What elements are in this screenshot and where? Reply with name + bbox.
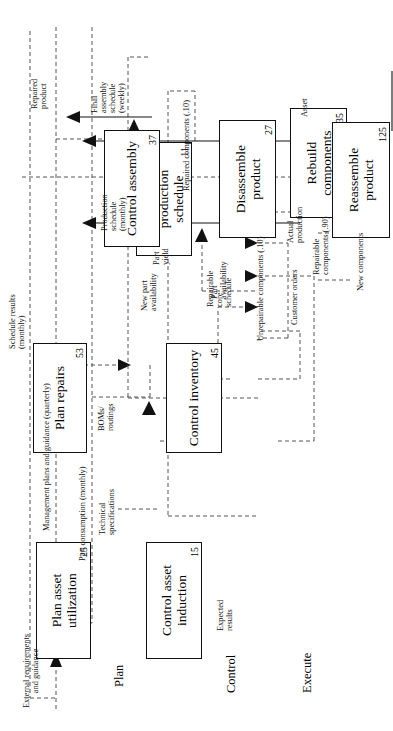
label-schedule-results: Schedule results (monthly) — [8, 239, 26, 349]
label-management-plans-and-guidance: Management plans and guidance (quarterly… — [42, 271, 51, 531]
label-part-yield: Part yield — [152, 219, 170, 265]
label-repairable-core-schedule: Repairable core schedule — [206, 249, 233, 307]
phase-label-control: Control — [224, 655, 239, 693]
box-number: 45 — [209, 348, 220, 358]
label-final-assembly-schedule: Final assembly schedule (weekly) — [90, 55, 126, 113]
box-number: 53 — [74, 348, 85, 358]
box-control-asset-induction[interactable]: Control asset induction 15 — [146, 542, 202, 659]
box-number: 27 — [263, 125, 274, 135]
label-external-requirements-and-guidance: External requirements and guidance — [22, 627, 40, 715]
label-part-consumption: Part consumption (monthly) — [78, 361, 87, 561]
label-customer-orders: Customer orders — [290, 235, 299, 325]
box-number: 125 — [377, 127, 388, 142]
box-title: Control inventory — [186, 344, 201, 452]
box-number: 15 — [189, 547, 200, 557]
box-number: 37 — [147, 135, 158, 145]
label-expected-results: Expected results — [216, 575, 234, 631]
label-unrepairable-components: Unrepairable components (.10) — [256, 181, 265, 341]
label-asset: Asset — [300, 75, 309, 117]
box-title: Plan asset utilization — [48, 543, 78, 658]
label-boms-routings: BOMs/ routings — [97, 381, 115, 431]
diagram-canvas: Plan asset utilization 25 Plan repairs 5… — [0, 0, 393, 731]
box-title: Plan repairs — [52, 344, 67, 452]
phase-label-execute: Execute — [300, 653, 315, 693]
label-repairable-components: Repairable components (.90) — [312, 189, 330, 275]
label-repaired-components: Repaired components (.10) — [182, 51, 191, 191]
label-technical-specifications: Technical specifications — [98, 457, 116, 535]
box-disassemble-product[interactable]: Disassemble product 27 — [219, 120, 276, 238]
phase-label-plan: Plan — [112, 665, 127, 687]
label-new-components: New components — [356, 195, 365, 291]
box-control-inventory[interactable]: Control inventory 45 — [166, 343, 222, 453]
label-actual-production: Actual production — [286, 187, 304, 243]
label-production-schedule: Production schedule (monthly) — [100, 161, 127, 231]
diagram-stage: Plan asset utilization 25 Plan repairs 5… — [0, 0, 393, 731]
label-repaired-product: Repaired product — [30, 49, 48, 109]
box-title: Control asset induction — [159, 543, 189, 658]
